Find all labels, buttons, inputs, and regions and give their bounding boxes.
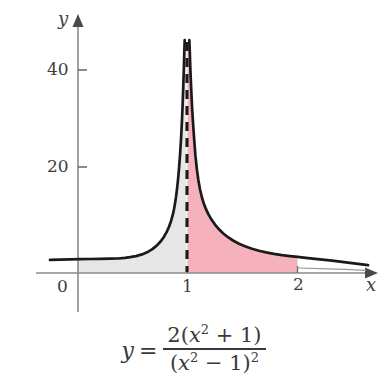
denominator-variable: x: [178, 351, 190, 375]
numerator-exponent: 2: [201, 322, 209, 337]
y-tick-label-20: 20: [47, 158, 69, 175]
equation-denominator: (x2 − 1)2: [166, 350, 263, 376]
equation-relation: =: [139, 322, 163, 363]
denominator-exponent: 2: [190, 350, 198, 365]
numerator-suffix: + 1): [209, 323, 262, 347]
y-axis-label: y: [58, 10, 68, 28]
x-tick-label-1: 1: [182, 278, 193, 295]
curve-right-tail-baseline: [298, 268, 367, 270]
y-axis-arrowhead: [73, 14, 84, 27]
y-tick-label-40: 40: [47, 61, 69, 78]
equation-caption: y = 2(x2 + 1) (x2 − 1)2: [0, 322, 387, 376]
x-axis-label: x: [366, 276, 376, 294]
denominator-outer-exponent: 2: [251, 350, 259, 365]
denominator-mid: − 1): [198, 351, 251, 375]
x-tick-label-2: 2: [293, 276, 304, 293]
left-shaded-region: [78, 42, 187, 273]
right-shaded-region: [188, 42, 298, 273]
equation-lhs: y: [121, 322, 138, 363]
equation-numerator: 2(x2 + 1): [163, 322, 265, 348]
origin-label: 0: [57, 278, 68, 295]
equation-fraction: 2(x2 + 1) (x2 − 1)2: [163, 322, 265, 376]
numerator-prefix: 2(: [167, 323, 189, 347]
numerator-variable: x: [189, 323, 201, 347]
denominator-prefix: (: [170, 351, 178, 375]
curve-left-branch: [50, 40, 185, 260]
figure-container: y x 40 20 0 1 2 y = 2(x2 + 1) (x2 − 1)2: [0, 0, 387, 377]
function-plot: [0, 0, 387, 377]
